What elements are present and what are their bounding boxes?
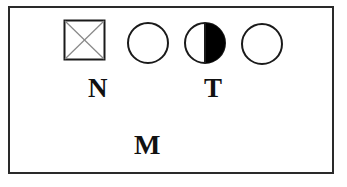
label-n: N (88, 75, 108, 102)
label-m: M (134, 131, 160, 159)
label-t: T (204, 75, 222, 102)
diagram-frame (8, 6, 334, 174)
empty-circle-icon (126, 21, 170, 65)
crossed-square-icon (63, 19, 107, 62)
empty-circle-icon (240, 22, 284, 66)
half-filled-circle-icon (183, 21, 227, 65)
